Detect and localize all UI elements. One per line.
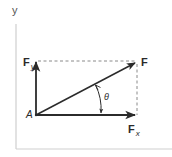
vector-f [36,63,135,115]
fx-label-main: F [128,123,135,135]
angle-arc [96,85,102,113]
vector-diagram [0,0,172,157]
fy-label: Fy [23,57,35,68]
f-label: F [141,57,148,68]
y-axis-label: y [12,5,18,16]
fx-label: Fx [128,124,140,135]
fy-label-main: F [23,56,30,68]
origin-point [35,114,37,116]
theta-label: θ [104,93,109,102]
fx-label-subscript: x [136,129,140,138]
origin-label: A [26,110,33,120]
fy-label-subscript: y [31,62,35,71]
angle-arc-start-arrow [96,85,101,90]
